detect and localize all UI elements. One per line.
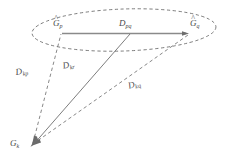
label-g-k-sub: k [17, 143, 20, 149]
label-g-p-base: ^G [53, 19, 60, 28]
label-d-kp-sub: kp [22, 70, 29, 77]
label-g-q-sub: q [197, 23, 200, 29]
edge-kr-line [33, 34, 130, 145]
label-d-pq-base: D [119, 19, 126, 28]
label-g-q: ^Gq [190, 19, 200, 28]
label-d-kr-sub: kr [69, 64, 75, 71]
label-d-kp: Dkp [15, 66, 29, 77]
hat-accent-q: ^ [191, 15, 195, 23]
hat-accent-p: ^ [54, 15, 58, 23]
label-d-pq: Dpq [119, 19, 132, 28]
label-g-q-base: ^G [190, 19, 197, 28]
label-d-kq: Dkq [127, 79, 141, 91]
label-g-k-base: G [10, 139, 17, 148]
label-d-kr: Dkr [62, 60, 75, 71]
label-g-k: Gk [10, 139, 19, 148]
label-g-p-sub: p [60, 23, 63, 29]
enclosing-ellipse [31, 6, 216, 54]
label-d-pq-sub: pq [126, 23, 132, 29]
diagram-canvas: ^Gp ^Gq Gk Dpq Dkp Dkr Dkq [0, 0, 226, 165]
label-g-p: ^Gp [53, 19, 63, 28]
edge-kp-line [33, 34, 61, 143]
